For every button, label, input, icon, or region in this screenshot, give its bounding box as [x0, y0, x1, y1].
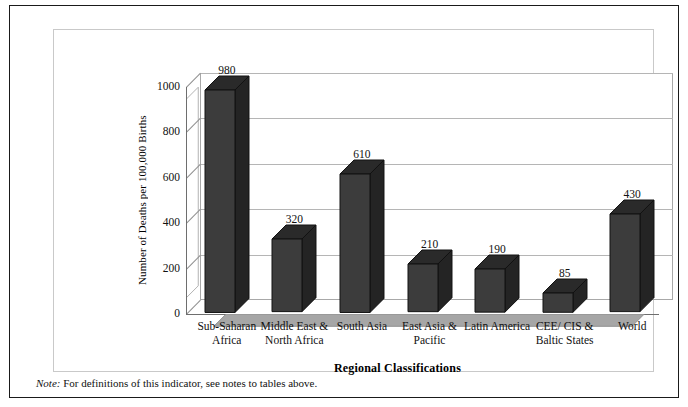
- bar-3: [408, 266, 438, 314]
- gridline: [200, 118, 673, 119]
- plot-area: 02004006008001000 98032061021019085430: [186, 87, 659, 314]
- x-axis-title: Regional Classifications: [97, 361, 688, 376]
- bar-body: [543, 279, 589, 314]
- footnote: Note: For definitions of this indicator,…: [36, 377, 317, 389]
- x-axis-category-labels: Sub-SaharanAfricaMiddle East &North Afri…: [186, 320, 673, 365]
- bar-body: [610, 200, 656, 314]
- data-label-0: 980: [218, 65, 235, 77]
- bar-body: [340, 160, 386, 314]
- bar-body: [272, 225, 318, 314]
- chart-frame: Number of Deaths per 100,000 Births 0200…: [53, 29, 654, 372]
- bar-0: [205, 92, 235, 314]
- y-axis-title: Number of Deaths per 100,000 Births: [136, 87, 148, 314]
- y-axis-line: [186, 87, 187, 314]
- footnote-prefix: Note:: [36, 377, 60, 389]
- bar-4: [475, 271, 505, 314]
- y-tick-label: 200: [163, 263, 180, 275]
- data-label-3: 210: [421, 239, 438, 251]
- footnote-text: For definitions of this indicator, see n…: [60, 377, 317, 389]
- y-tick-label: 0: [174, 308, 180, 320]
- data-label-2: 610: [353, 149, 370, 161]
- category-label-line: Pacific: [385, 334, 475, 348]
- bar-5: [543, 295, 573, 314]
- data-label-5: 85: [559, 268, 571, 280]
- category-label-line: Baltic States: [520, 334, 610, 348]
- data-label-4: 190: [488, 244, 505, 256]
- y-tick-label: 600: [163, 172, 180, 184]
- y-tick-label: 400: [163, 217, 180, 229]
- bar-body: [475, 255, 521, 314]
- bar-1: [272, 241, 302, 314]
- gridline: [200, 209, 673, 210]
- y-tick-label: 1000: [157, 81, 180, 93]
- bar-6: [610, 216, 640, 314]
- page-border: Number of Deaths per 100,000 Births 0200…: [9, 5, 679, 398]
- bar-body: [408, 250, 454, 314]
- data-label-6: 430: [624, 189, 641, 201]
- gridline: [200, 164, 673, 165]
- chart-left-wall: [186, 73, 200, 314]
- y-tick-label: 800: [163, 127, 180, 139]
- bar-2: [340, 176, 370, 314]
- gridline: [200, 73, 673, 74]
- category-label-6: World: [587, 320, 677, 334]
- bar-body: [205, 76, 251, 314]
- data-label-1: 320: [286, 214, 303, 226]
- category-label-line: North Africa: [249, 334, 339, 348]
- category-label-line: World: [587, 320, 677, 334]
